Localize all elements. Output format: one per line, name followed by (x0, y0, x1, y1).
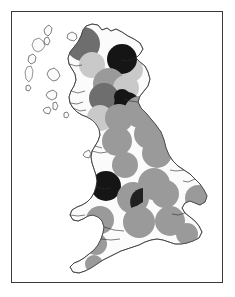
merseyside-symbol (91, 171, 121, 201)
wales-north-symbol (86, 206, 114, 234)
barra-outline (26, 85, 31, 91)
kent-symbol (176, 223, 198, 245)
mull-outline (46, 90, 57, 100)
lancashire-symbol (112, 152, 138, 178)
isle-of-man-outline (83, 150, 91, 158)
south-west-symbol (123, 206, 155, 238)
jura-outline (53, 102, 58, 110)
isle-of-skye-outline (47, 68, 60, 81)
south-uist-outline (25, 66, 33, 82)
east-anglia-symbol (185, 185, 211, 211)
cornwall-symbol (85, 255, 103, 273)
arran-outline (64, 112, 69, 118)
east-midlands-symbol (151, 180, 179, 208)
shetland-islands-outline (44, 25, 52, 36)
map-frame-border (11, 11, 223, 283)
orkney-islands-outline (67, 32, 77, 41)
great-britain-map (12, 12, 222, 282)
lewis-harris-outline (32, 38, 45, 52)
wales-south-symbol (85, 233, 107, 255)
north-uist-outline (28, 54, 36, 64)
yorkshire-north-symbol (142, 138, 172, 168)
islay-outline (43, 107, 51, 114)
figure-root (0, 0, 235, 297)
shetland-south-outline (44, 37, 50, 45)
cumbria-symbol (102, 126, 132, 156)
